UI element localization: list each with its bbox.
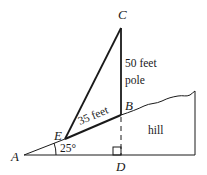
right-angle-marker xyxy=(113,147,121,155)
label-pole: pole xyxy=(125,74,145,87)
label-C: C xyxy=(118,7,127,22)
angle-arc-A xyxy=(54,143,56,155)
pole-on-hill-diagram: C 50 feet pole B 35 feet E 25° A hill D xyxy=(0,0,207,175)
label-B: B xyxy=(125,98,133,113)
label-A: A xyxy=(10,149,19,164)
label-E: E xyxy=(53,128,62,143)
label-angle-A: 25° xyxy=(60,142,77,154)
guy-wire-EC xyxy=(65,28,121,139)
label-D: D xyxy=(115,159,126,174)
label-hill: hill xyxy=(148,124,163,136)
label-pole-length: 50 feet xyxy=(125,57,157,69)
diagram-canvas: C 50 feet pole B 35 feet E 25° A hill D xyxy=(0,0,207,175)
